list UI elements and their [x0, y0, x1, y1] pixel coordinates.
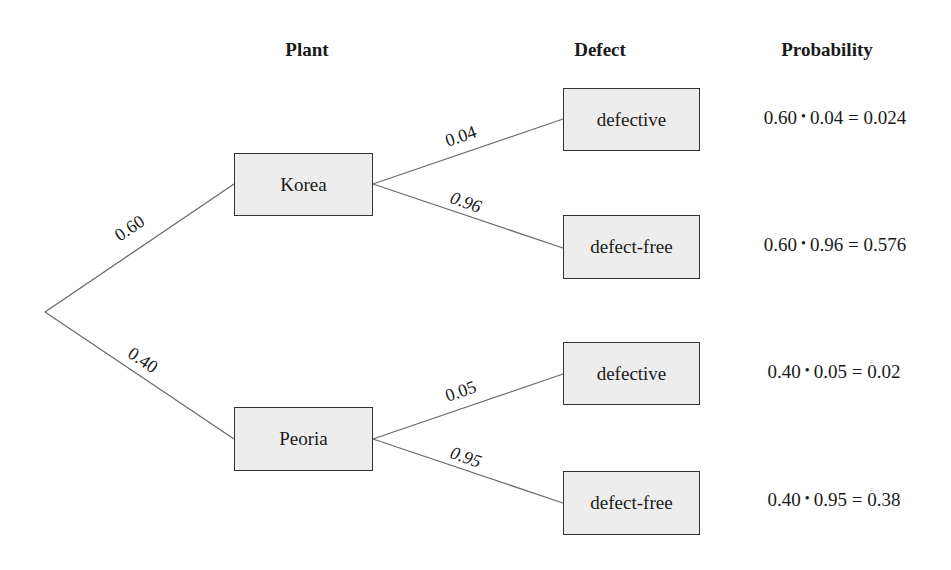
node-peoria-defect-free: defect-free	[563, 471, 700, 535]
prob-factor-a: 0.40	[768, 361, 801, 382]
equals-sign: =	[852, 489, 863, 510]
multiply-dot-icon: •	[797, 109, 810, 124]
node-peoria-defective: defective	[563, 342, 700, 405]
multiply-dot-icon: •	[801, 363, 814, 378]
probability-korea-defect-free: 0.60•0.96 = 0.576	[764, 234, 906, 256]
probability-korea-defective: 0.60•0.04 = 0.024	[764, 107, 906, 129]
prob-result: 0.02	[867, 361, 900, 382]
header-plant: Plant	[285, 39, 328, 61]
node-peoria-defect-free-label: defect-free	[590, 492, 672, 514]
prob-factor-b: 0.95	[814, 489, 847, 510]
multiply-dot-icon: •	[801, 491, 814, 506]
probability-peoria-defect-free: 0.40•0.95 = 0.38	[768, 489, 901, 511]
node-peoria-label: Peoria	[279, 428, 328, 450]
edge-root-korea	[45, 184, 234, 312]
node-korea-defect-free-label: defect-free	[590, 236, 672, 258]
edge-root-peoria	[45, 312, 234, 439]
node-korea-defective: defective	[563, 88, 700, 151]
prob-factor-a: 0.40	[768, 489, 801, 510]
tree-diagram-lines	[0, 0, 951, 570]
node-korea-defect-free: defect-free	[563, 215, 700, 279]
node-korea-label: Korea	[280, 174, 326, 196]
node-peoria: Peoria	[234, 407, 373, 471]
prob-factor-b: 0.05	[814, 361, 847, 382]
node-peoria-defective-label: defective	[597, 363, 667, 385]
prob-result: 0.38	[867, 489, 900, 510]
header-defect: Defect	[574, 39, 626, 61]
prob-result: 0.024	[863, 107, 906, 128]
prob-factor-a: 0.60	[764, 107, 797, 128]
header-probability: Probability	[781, 39, 873, 61]
prob-factor-b: 0.96	[810, 234, 843, 255]
equals-sign: =	[848, 107, 859, 128]
probability-peoria-defective: 0.40•0.05 = 0.02	[768, 361, 901, 383]
equals-sign: =	[848, 234, 859, 255]
prob-factor-b: 0.04	[810, 107, 843, 128]
prob-factor-a: 0.60	[764, 234, 797, 255]
equals-sign: =	[852, 361, 863, 382]
multiply-dot-icon: •	[797, 236, 810, 251]
prob-result: 0.576	[863, 234, 906, 255]
node-korea-defective-label: defective	[597, 109, 667, 131]
node-korea: Korea	[234, 153, 373, 216]
